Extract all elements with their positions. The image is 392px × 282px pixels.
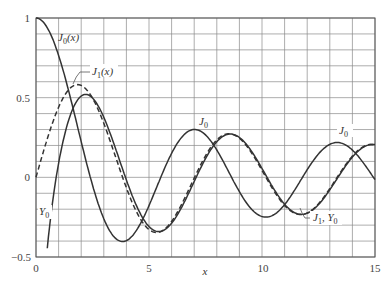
label-j1x: J1(x) [92,65,113,80]
x-axis-label: x [202,265,208,277]
y-tick-0: 0 [25,171,31,183]
y-tick-0-5: 0.5 [16,92,30,104]
y-tick-1: 1 [25,12,31,24]
x-tick-5: 5 [146,262,152,274]
y-tick-neg-0-5: −0.5 [11,251,31,263]
x-tick-15: 15 [370,262,382,274]
x-tick-10: 10 [258,262,270,274]
x-tick-0: 0 [33,262,39,274]
bessel-chart: 1 0.5 0 −0.5 0 5 10 15 x J0(x) J1(x) J0 … [0,0,392,282]
label-j0x: J0(x) [58,31,79,46]
